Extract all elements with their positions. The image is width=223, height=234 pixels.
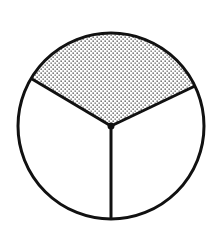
- diagram-canvas: [0, 0, 223, 234]
- shaded-sector: [32, 34, 195, 126]
- fraction-circle-diagram: [0, 0, 223, 234]
- center-point: [108, 123, 115, 130]
